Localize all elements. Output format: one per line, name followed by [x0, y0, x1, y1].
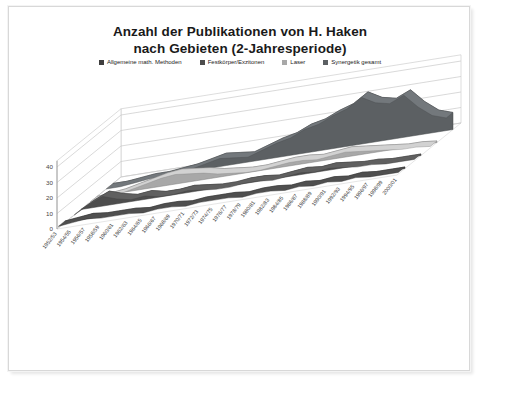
- x-axis-tick-label: 1962/63: [112, 220, 129, 239]
- x-axis-tick-label: 1988/89: [296, 190, 313, 209]
- x-axis-tick-label: 1974/75: [197, 206, 214, 225]
- x-axis-tick-label: 1964/65: [126, 217, 143, 236]
- x-axis-tick-label: 1980/81: [239, 199, 256, 218]
- x-axis-tick-label: 1958/59: [84, 224, 101, 243]
- x-axis-tick-label: 1954/55: [55, 229, 72, 248]
- x-axis-tick-label: 1978/79: [225, 202, 242, 221]
- x-axis-tick-label: 2000/01: [381, 177, 398, 196]
- x-axis-tick-label: 1956/57: [69, 226, 86, 245]
- x-axis-tick-label: 1984/85: [268, 195, 285, 214]
- x-axis-tick-label: 1970/71: [169, 211, 186, 230]
- x-axis-tick-label: 1990/91: [310, 188, 327, 207]
- x-axis-tick-label: 1952/53: [41, 231, 58, 250]
- x-axis-tick-label: 1960/61: [98, 222, 115, 241]
- x-axis-tick-label: 1972/73: [183, 208, 200, 227]
- x-axis-tick-label: 1986/87: [282, 193, 299, 212]
- x-axis-tick-label: 1966/67: [140, 215, 157, 234]
- chart-plot-area: 0102030401952/531954/551956/571958/59196…: [9, 7, 471, 372]
- y-axis-tick-label: 40: [46, 163, 53, 170]
- y-axis-tick-label: 20: [46, 194, 53, 201]
- chart-page-frame: Anzahl der Publikationen von H. Haken na…: [8, 6, 470, 371]
- x-axis-tick-label: 1994/95: [339, 184, 356, 203]
- x-axis-tick-label: 1996/97: [353, 181, 370, 200]
- x-axis-tick-label: 1968/69: [154, 213, 171, 232]
- x-axis-tick-label: 1982/83: [254, 197, 271, 216]
- x-axis-tick-label: 1992/93: [324, 186, 341, 205]
- y-axis-tick-label: 30: [46, 179, 53, 186]
- y-axis-tick-label: 10: [46, 210, 53, 217]
- x-axis-tick-label: 1976/77: [211, 204, 228, 223]
- area-chart-3d: 0102030401952/531954/551956/571958/59196…: [9, 7, 471, 372]
- x-axis-tick-label: 1998/99: [367, 179, 384, 198]
